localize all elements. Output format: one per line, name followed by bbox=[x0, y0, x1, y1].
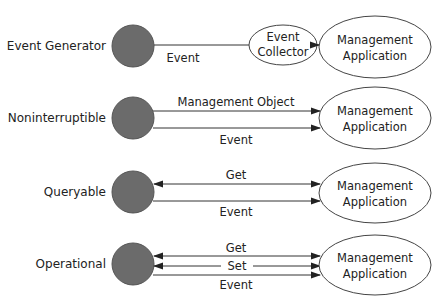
row-label: Operational bbox=[36, 257, 106, 271]
arrow-label-event: Event bbox=[220, 205, 253, 219]
collector-label-line1: Event bbox=[267, 30, 300, 44]
row-operational: Operational Get Set Event Management App… bbox=[36, 235, 431, 295]
app-label-line1: Management bbox=[337, 251, 413, 265]
arrow-label-management-object: Management Object bbox=[178, 95, 295, 109]
management-interaction-diagram: Event Generator Event Event Collector Ma… bbox=[0, 0, 433, 307]
collector-label-line2: Collector bbox=[257, 45, 308, 59]
app-label-line2: Application bbox=[343, 267, 407, 281]
arrow-label-get: Get bbox=[226, 168, 247, 182]
app-label-line2: Application bbox=[343, 195, 407, 209]
app-label-line1: Management bbox=[337, 33, 413, 47]
row-label: Queryable bbox=[44, 185, 106, 199]
generator-node-icon bbox=[112, 171, 154, 213]
arrow-label-event: Event bbox=[167, 51, 200, 65]
management-application-node bbox=[319, 87, 431, 149]
management-application-node bbox=[319, 235, 431, 295]
arrow-label-set: Set bbox=[228, 259, 247, 273]
app-label-line2: Application bbox=[343, 120, 407, 134]
row-label: Noninterruptible bbox=[8, 111, 106, 125]
arrow-label-event: Event bbox=[220, 278, 253, 292]
row-event-generator: Event Generator Event Event Collector Ma… bbox=[7, 16, 431, 78]
app-label-line2: Application bbox=[343, 49, 407, 63]
management-application-node bbox=[319, 16, 431, 78]
app-label-line1: Management bbox=[337, 104, 413, 118]
arrow-label-event: Event bbox=[220, 133, 253, 147]
app-label-line1: Management bbox=[337, 179, 413, 193]
management-application-node bbox=[319, 163, 431, 223]
generator-node-icon bbox=[112, 97, 154, 139]
generator-node-icon bbox=[112, 25, 154, 67]
row-label: Event Generator bbox=[7, 39, 106, 53]
arrow-label-get: Get bbox=[226, 241, 247, 255]
row-noninterruptible: Noninterruptible Management Object Event… bbox=[8, 87, 431, 149]
row-queryable: Queryable Get Event Management Applicati… bbox=[44, 163, 431, 223]
generator-node-icon bbox=[112, 243, 154, 285]
